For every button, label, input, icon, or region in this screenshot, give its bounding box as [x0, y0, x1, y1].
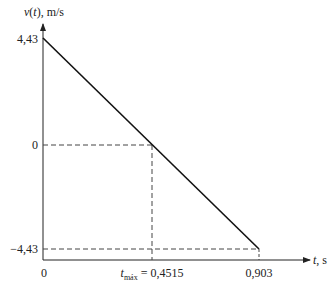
y-axis-label: v(t), m/s [24, 5, 64, 19]
velocity-chart: v(t), m/s 4,43 0 −4,43 0 tmáx = 0,4515 0… [0, 0, 336, 289]
x-axis-label: t, s [313, 253, 327, 267]
xtick-zero: 0 [41, 266, 47, 280]
xtick-end: 0,903 [246, 266, 273, 280]
xtick-tmax: tmáx = 0,4515 [121, 266, 184, 282]
velocity-line [43, 38, 259, 249]
ytick-top: 4,43 [17, 32, 38, 46]
ytick-zero: 0 [32, 138, 38, 152]
ytick-bottom: −4,43 [10, 242, 38, 256]
